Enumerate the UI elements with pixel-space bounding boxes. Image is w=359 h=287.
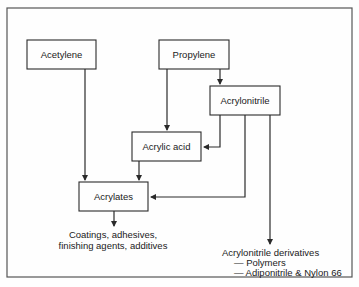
node-acrylates: Acrylates: [79, 182, 148, 211]
node-acrylonitrile: Acrylonitrile: [210, 86, 280, 115]
node-label: Acrylonitrile: [220, 95, 269, 106]
acrylates-uses-note: Coatings, adhesives, finishing agents, a…: [59, 229, 168, 251]
uses-line-1: Coatings, adhesives,: [69, 229, 157, 240]
node-acrylic-acid: Acrylic acid: [132, 132, 201, 161]
edge-acrylonitrile-acrylic-acid: [204, 115, 220, 147]
node-label: Acetylene: [41, 49, 83, 60]
uses-line-2: finishing agents, additives: [59, 240, 168, 251]
acrylonitrile-derivatives-note: Acrylonitrile derivatives — Polymers — A…: [222, 247, 342, 278]
node-label: Propylene: [173, 49, 216, 60]
node-acetylene: Acetylene: [27, 40, 96, 69]
derivative-item: — Adiponitrile & Nylon 66: [234, 267, 342, 278]
node-propylene: Propylene: [159, 40, 229, 69]
flow-diagram: Acetylene Propylene Acrylonitrile Acryli…: [0, 0, 359, 287]
node-label: Acrylic acid: [142, 141, 190, 152]
node-label: Acrylates: [94, 191, 133, 202]
